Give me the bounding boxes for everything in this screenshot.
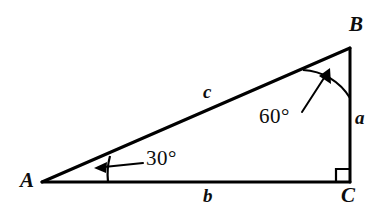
triangle-drawing-canvas bbox=[0, 0, 384, 216]
vertex-label-c: C bbox=[341, 185, 355, 206]
side-label-c: c bbox=[203, 82, 211, 101]
side-label-b: b bbox=[203, 186, 213, 205]
side-c-hypotenuse-line bbox=[42, 48, 350, 182]
vertex-label-b: B bbox=[349, 14, 363, 35]
angle-a-leader-line bbox=[104, 163, 143, 167]
angle-arc-at-a bbox=[108, 156, 110, 182]
angle-a-leader-arrowhead bbox=[94, 162, 107, 173]
vertex-label-a: A bbox=[20, 170, 34, 191]
angle-measure-label-a: 30° bbox=[146, 148, 177, 169]
right-angle-square-marker bbox=[336, 169, 349, 182]
geometry-figure: A B C a b c 30° 60° bbox=[0, 0, 384, 216]
angle-measure-label-b: 60° bbox=[259, 106, 290, 127]
side-label-a: a bbox=[355, 108, 365, 127]
angle-b-leader-line bbox=[302, 78, 324, 112]
